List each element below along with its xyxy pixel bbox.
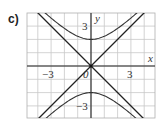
y-tick-label: −3 bbox=[76, 100, 88, 112]
x-tick-label: 3 bbox=[127, 68, 133, 80]
x-axis-label: x bbox=[147, 52, 153, 64]
x-tick-label: −3 bbox=[42, 68, 54, 80]
origin-point bbox=[89, 64, 92, 67]
hyperbola-plot: −333−30xy bbox=[0, 0, 161, 123]
y-axis-label: y bbox=[94, 12, 100, 24]
y-tick-label: 3 bbox=[82, 20, 88, 32]
origin-label: 0 bbox=[83, 68, 89, 80]
